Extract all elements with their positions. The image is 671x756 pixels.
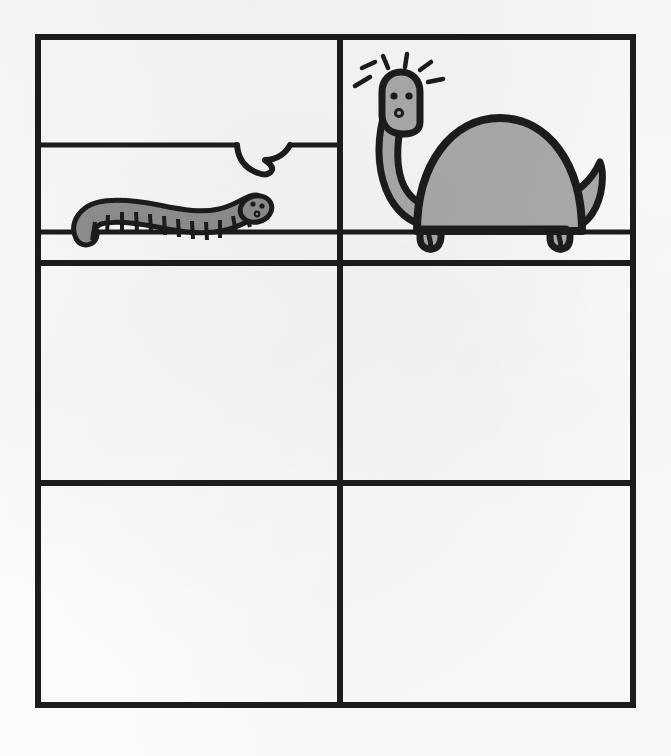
panel-middle-left[interactable] (41, 266, 337, 480)
panel-bottom-left[interactable] (41, 486, 337, 702)
panel-top-left[interactable] (41, 40, 337, 260)
panel-bottom-right[interactable] (343, 486, 630, 702)
comic-page (0, 0, 671, 756)
panel-top-right[interactable] (343, 40, 630, 260)
panel-middle-right[interactable] (343, 266, 630, 480)
